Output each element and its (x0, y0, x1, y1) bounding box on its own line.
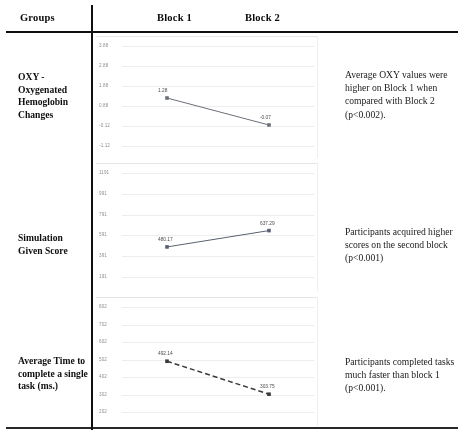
column-header-block-2: Block 2 (245, 12, 280, 23)
column-header-block-1: Block 1 (157, 12, 192, 23)
data-point-marker (165, 359, 169, 363)
data-point-marker (267, 123, 271, 127)
chart-oxy-hemoglobin: 3.882.881.880.88-0.12-1.121.28-0.07 (96, 36, 318, 158)
row-note-average-time: Participants completed tasks much faster… (345, 355, 457, 395)
data-point-label: 1.28 (158, 88, 167, 93)
row-note-oxy: Average OXY values were higher on Block … (345, 68, 457, 121)
data-point-label: 480.17 (158, 237, 173, 242)
row-label-oxy: OXY - Oxygenated Hemoglobin Changes (18, 71, 88, 121)
header-rule (6, 31, 458, 33)
data-point-marker (165, 96, 169, 100)
chart-plot-area: 1191991791591391191480.17637.29 (96, 163, 318, 291)
data-point-marker (267, 392, 271, 396)
series-line (96, 163, 318, 291)
table-header: Groups Block 1 Block 2 (0, 8, 464, 32)
data-point-label: 303.75 (260, 384, 275, 389)
data-point-marker (165, 245, 169, 249)
data-point-marker (267, 229, 271, 233)
row-label-simulation-score: Simulation Given Score (18, 232, 88, 257)
series-line (96, 36, 318, 158)
chart-plot-area: 3.882.881.880.88-0.12-1.121.28-0.07 (96, 36, 318, 158)
chart-plot-area: 802702602502402302202492.14303.75 (96, 297, 318, 426)
table-figure: Groups Block 1 Block 2 OXY - Oxygenated … (0, 0, 464, 434)
footer-rule (6, 427, 458, 429)
data-point-label: 492.14 (158, 351, 173, 356)
chart-simulation-score: 1191991791591391191480.17637.29 (96, 163, 318, 291)
data-point-label: -0.07 (260, 115, 271, 120)
series-line (96, 297, 318, 426)
column-header-groups: Groups (20, 12, 55, 23)
row-note-simulation-score: Participants acquired higher scores on t… (345, 225, 457, 265)
chart-average-time: 802702602502402302202492.14303.75 (96, 297, 318, 426)
column-divider-rule (91, 5, 93, 430)
row-label-average-time: Average Time to complete a single task (… (18, 355, 88, 393)
data-point-label: 637.29 (260, 221, 275, 226)
